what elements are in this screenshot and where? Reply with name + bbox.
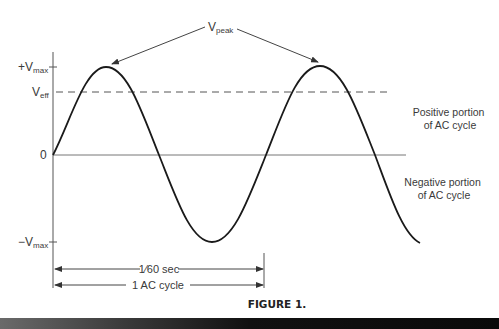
veff-label: Veff — [32, 85, 50, 100]
vpeak-label: Vpeak — [208, 20, 234, 35]
plus-vmax-label: +Vmax — [18, 60, 48, 75]
vpeak-arrow-right — [237, 29, 318, 62]
ac-sine-diagram: Vpeak +Vmax Veff 0 −Vmax Positive portio… — [0, 0, 499, 329]
figure-caption: FIGURE 1. — [248, 298, 306, 310]
zero-label: 0 — [40, 148, 47, 162]
cycle-label: 1 AC cycle — [132, 279, 184, 291]
bottom-dark-band — [0, 318, 499, 329]
vpeak-arrow-left — [112, 27, 205, 64]
minus-vmax-label: −Vmax — [18, 235, 48, 250]
negative-portion-label: Negative portion of AC cycle — [404, 176, 483, 201]
period-label: 1⁄60 sec — [139, 263, 180, 275]
positive-portion-label: Positive portion of AC cycle — [413, 106, 488, 131]
